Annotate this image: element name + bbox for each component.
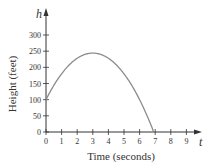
x-tick-label: 1 xyxy=(60,137,64,146)
y-tick-label: 0 xyxy=(37,128,41,137)
height-curve xyxy=(46,53,153,132)
y-tick-label: 200 xyxy=(29,63,41,72)
x-tick-label: 4 xyxy=(106,137,110,146)
x-tick-label: 5 xyxy=(122,137,126,146)
x-tick-label: 2 xyxy=(75,137,79,146)
x-axis-symbol: t xyxy=(199,135,203,149)
y-axis-symbol: h xyxy=(36,7,42,21)
x-tick-label: 9 xyxy=(184,137,188,146)
y-tick-label: 150 xyxy=(29,80,41,89)
y-axis-arrow-icon xyxy=(44,8,49,16)
height-vs-time-chart: h 050100150200250300 Height (feet) t 012… xyxy=(0,0,211,165)
y-tick-label: 300 xyxy=(29,31,41,40)
x-tick-label: 0 xyxy=(44,137,48,146)
x-tick-label: 7 xyxy=(153,137,157,146)
y-axis: h 050100150200250300 Height (feet) xyxy=(6,7,49,137)
x-axis-arrow-icon xyxy=(194,130,202,135)
x-tick-label: 6 xyxy=(138,137,142,146)
x-tick-label: 3 xyxy=(91,137,95,146)
y-tick-label: 250 xyxy=(29,47,41,56)
x-axis: t 0123456789 Time (seconds) xyxy=(44,129,203,163)
y-tick-label: 50 xyxy=(33,112,41,121)
y-axis-label: Height (feet) xyxy=(6,55,19,112)
x-axis-label: Time (seconds) xyxy=(87,150,155,163)
y-tick-label: 100 xyxy=(29,96,41,105)
x-tick-label: 8 xyxy=(169,137,173,146)
